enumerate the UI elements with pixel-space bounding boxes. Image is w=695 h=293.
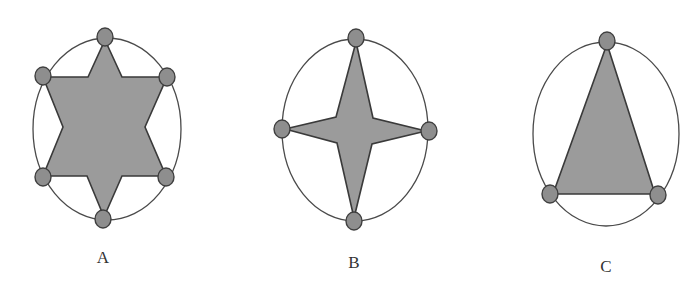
figure-b: B xyxy=(274,29,437,272)
figure-c-node-bottom-right xyxy=(650,186,666,204)
figure-b-node-left xyxy=(274,120,290,138)
figure-b-label: B xyxy=(348,253,359,272)
figure-b-node-top xyxy=(348,29,364,47)
figure-a: A xyxy=(33,28,181,267)
diagram-canvas: A B C xyxy=(0,0,695,293)
figure-a-six-pointed-star xyxy=(43,40,167,217)
figure-b-four-pointed-star xyxy=(285,42,426,218)
figure-a-node-upper-right xyxy=(159,68,175,86)
figure-a-label: A xyxy=(97,248,110,267)
figure-a-node-upper-left xyxy=(35,67,51,85)
figure-c-label: C xyxy=(600,257,611,276)
figure-a-node-bottom xyxy=(95,210,111,228)
figure-c-node-top xyxy=(599,32,615,50)
figure-a-node-top xyxy=(97,28,113,46)
figure-c-triangle xyxy=(553,44,655,194)
figure-a-node-lower-left xyxy=(35,168,51,186)
figure-c-node-bottom-left xyxy=(542,185,558,203)
figure-b-node-bottom xyxy=(346,212,362,230)
figure-c: C xyxy=(533,32,679,276)
figure-b-node-right xyxy=(421,122,437,140)
figure-a-node-lower-right xyxy=(158,168,174,186)
